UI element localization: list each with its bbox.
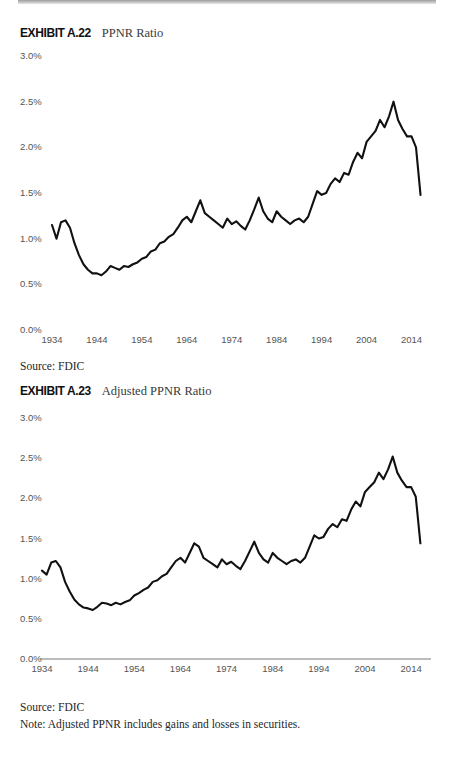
- exhibit-a23-title: Adjusted PPNR Ratio: [102, 384, 212, 398]
- exhibit-a22-title: PPNR Ratio: [102, 26, 163, 40]
- y-axis-label: 2.5%: [20, 452, 42, 463]
- y-axis-label: 1.0%: [20, 573, 42, 584]
- data-line: [42, 457, 420, 610]
- y-axis-label: 1.0%: [20, 233, 42, 244]
- chart-adjusted-ppnr-ratio: 3.0%2.5%2.0%1.5%1.0%0.5%0.0%193419441954…: [0, 407, 454, 707]
- chart-adjusted-ppnr-ratio-plot: [0, 407, 454, 707]
- x-axis-label: 1994: [311, 334, 332, 345]
- x-axis-label: 1974: [216, 663, 237, 674]
- x-axis-label: 1974: [221, 334, 242, 345]
- exhibit-a23-note: Note: Adjusted PPNR includes gains and l…: [20, 718, 300, 730]
- y-axis-label: 2.0%: [20, 141, 42, 152]
- x-axis-label: 1954: [124, 663, 145, 674]
- exhibit-a22-header: EXHIBIT A.22PPNR Ratio: [20, 26, 163, 41]
- x-axis-label: 2014: [401, 334, 422, 345]
- exhibit-a23-header: EXHIBIT A.23Adjusted PPNR Ratio: [20, 384, 212, 399]
- x-axis-label: 1984: [266, 334, 287, 345]
- chart-ppnr-ratio: 3.0%2.5%2.0%1.5%1.0%0.5%0.0%193419441954…: [0, 45, 454, 345]
- y-axis-label: 1.5%: [20, 187, 42, 198]
- x-axis-label: 1954: [131, 334, 152, 345]
- exhibit-a23-source: Source: FDIC: [20, 701, 84, 713]
- x-axis-label: 1964: [176, 334, 197, 345]
- x-axis-label: 2014: [401, 663, 422, 674]
- y-axis-label: 1.5%: [20, 533, 42, 544]
- exhibit-a22-number: EXHIBIT A.22: [20, 26, 91, 40]
- x-axis-label: 1964: [170, 663, 191, 674]
- x-axis-label: 2004: [356, 334, 377, 345]
- y-axis-label: 2.5%: [20, 96, 42, 107]
- x-axis-label: 1934: [41, 334, 62, 345]
- y-axis-label: 3.0%: [20, 50, 42, 61]
- x-axis-label: 1944: [78, 663, 99, 674]
- top-rule: [18, 0, 436, 4]
- y-axis-label: 3.0%: [20, 412, 42, 423]
- chart-ppnr-ratio-plot: [0, 45, 454, 345]
- y-axis-label: 0.5%: [20, 278, 42, 289]
- x-axis-label: 1934: [31, 663, 52, 674]
- y-axis-label: 0.0%: [20, 324, 42, 335]
- x-axis-label: 1944: [86, 334, 107, 345]
- x-axis-label: 1984: [262, 663, 283, 674]
- y-axis-label: 2.0%: [20, 492, 42, 503]
- data-line: [52, 102, 421, 276]
- exhibit-a23-number: EXHIBIT A.23: [20, 384, 91, 398]
- x-axis-label: 1994: [308, 663, 329, 674]
- exhibit-a22-source: Source: FDIC: [20, 360, 84, 372]
- x-axis-label: 2004: [354, 663, 375, 674]
- y-axis-label: 0.5%: [20, 613, 42, 624]
